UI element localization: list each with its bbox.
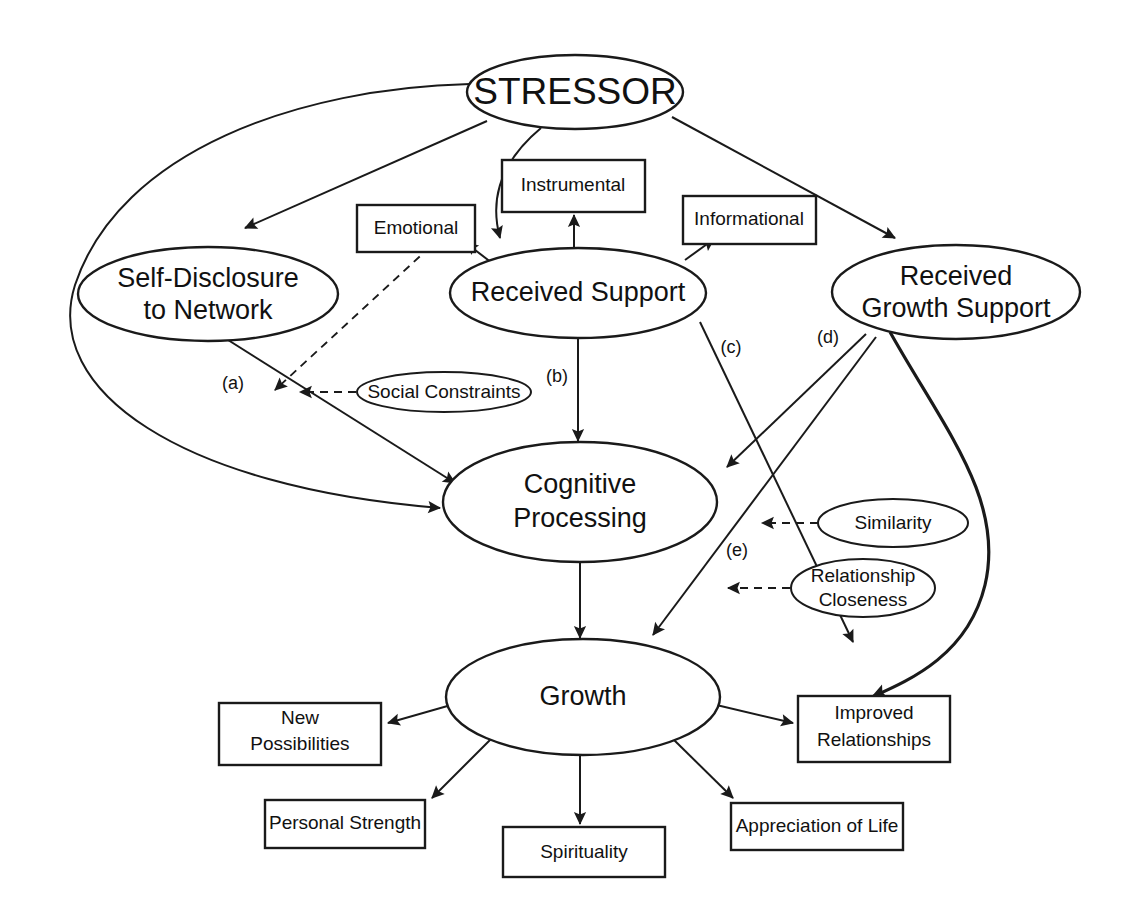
node-cognitive-processing-label-line2: Processing: [513, 503, 647, 533]
node-spirituality[interactable]: Spirituality: [503, 827, 665, 877]
node-improved-relationships-label-line1: Improved: [834, 702, 913, 723]
node-appreciation-of-life-label: Appreciation of Life: [736, 815, 899, 836]
node-improved-relationships-label-line2: Relationships: [817, 729, 931, 750]
node-spirituality-label: Spirituality: [540, 841, 628, 862]
node-received-growth-support-label-line2: Growth Support: [861, 293, 1051, 323]
node-emotional[interactable]: Emotional: [357, 205, 475, 252]
node-self-disclosure-label-line1: Self-Disclosure: [117, 263, 299, 293]
path-label-b: (b): [546, 366, 568, 386]
node-relationship-closeness-label-line1: Relationship: [811, 565, 916, 586]
node-instrumental-label: Instrumental: [521, 174, 626, 195]
edge-growth-to-appreciation-of-life: [672, 738, 733, 798]
node-received-support[interactable]: Received Support: [450, 248, 706, 338]
node-personal-strength-label: Personal Strength: [269, 812, 421, 833]
node-received-support-label: Received Support: [471, 277, 686, 307]
node-similarity-label: Similarity: [854, 512, 932, 533]
path-model-diagram: STRESSOR Self-Disclosure to Network Rece…: [0, 0, 1136, 908]
node-new-possibilities-label-line2: Possibilities: [250, 733, 349, 754]
node-cognitive-processing[interactable]: Cognitive Processing: [443, 442, 717, 562]
path-label-a: (a): [222, 373, 244, 393]
node-received-growth-support[interactable]: Received Growth Support: [832, 245, 1080, 339]
node-appreciation-of-life[interactable]: Appreciation of Life: [731, 803, 903, 850]
node-growth[interactable]: Growth: [446, 639, 720, 755]
node-emotional-label: Emotional: [374, 217, 459, 238]
node-new-possibilities-label-line1: New: [281, 707, 319, 728]
node-similarity[interactable]: Similarity: [818, 499, 968, 547]
node-relationship-closeness[interactable]: Relationship Closeness: [791, 559, 935, 617]
edge-received-growth-support-to-cognitive-processing: [727, 334, 866, 467]
node-growth-label: Growth: [539, 681, 626, 711]
node-stressor[interactable]: STRESSOR: [467, 55, 683, 129]
edge-growth-to-improved-relationships: [708, 703, 793, 723]
node-informational-label: Informational: [694, 208, 804, 229]
node-social-constraints-label: Social Constraints: [367, 381, 520, 402]
node-stressor-label: STRESSOR: [473, 71, 677, 112]
node-improved-relationships[interactable]: Improved Relationships: [798, 696, 950, 762]
node-self-disclosure-label-line2: to Network: [143, 295, 273, 325]
node-relationship-closeness-label-line2: Closeness: [819, 589, 908, 610]
node-self-disclosure[interactable]: Self-Disclosure to Network: [78, 247, 338, 341]
node-personal-strength[interactable]: Personal Strength: [265, 800, 425, 848]
node-received-growth-support-label-line1: Received: [900, 261, 1013, 291]
path-label-e: (e): [726, 540, 748, 560]
diagram-canvas: STRESSOR Self-Disclosure to Network Rece…: [0, 0, 1136, 908]
node-new-possibilities[interactable]: New Possibilities: [219, 703, 381, 765]
edge-growth-to-personal-strength: [432, 738, 492, 798]
node-instrumental[interactable]: Instrumental: [502, 160, 645, 212]
path-label-c: (c): [721, 337, 742, 357]
node-informational[interactable]: Informational: [683, 196, 816, 244]
path-label-d: (d): [817, 327, 839, 347]
node-social-constraints[interactable]: Social Constraints: [357, 372, 531, 412]
node-cognitive-processing-label-line1: Cognitive: [524, 469, 637, 499]
